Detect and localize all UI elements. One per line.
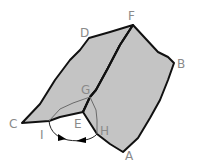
label-d: D: [80, 26, 89, 40]
arrowhead-right: [76, 137, 86, 143]
dihedral-diagram: F D B A C E G H I: [0, 0, 197, 162]
label-c: C: [9, 117, 17, 131]
label-i: I: [40, 128, 44, 142]
label-b: B: [177, 57, 185, 71]
arrowhead-left: [58, 134, 66, 141]
label-h: H: [100, 124, 109, 138]
label-g: G: [81, 83, 90, 97]
label-f: F: [128, 9, 135, 23]
label-e: E: [74, 117, 82, 131]
label-a: A: [125, 149, 134, 162]
